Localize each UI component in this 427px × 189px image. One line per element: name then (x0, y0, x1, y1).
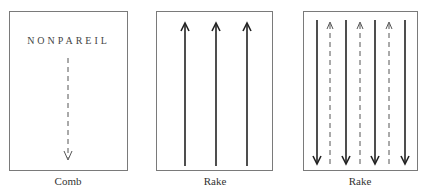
rake-dashed-up-arrow-icon (327, 22, 333, 165)
comb-dashed-down-arrow-icon (64, 58, 72, 160)
rake-down-arrow-icon (342, 20, 350, 164)
rake-up-arrow-icon (181, 23, 189, 166)
rake-down-arrow-icon (401, 20, 409, 164)
rake-up-arrow-icon (212, 23, 220, 166)
rake-up-arrow-icon (243, 23, 251, 166)
rake-dashed-up-arrow-icon (357, 22, 363, 165)
rake-dashed-up-arrow-icon (386, 22, 392, 165)
rake-down-arrow-icon (313, 20, 321, 164)
rake-down-arrow-icon (371, 20, 379, 164)
arrow-layer (0, 0, 427, 189)
